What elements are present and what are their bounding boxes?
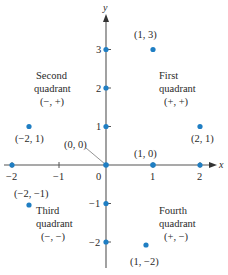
point-label: (1, 3) [134, 29, 157, 41]
y-tick-labels: 3 2 1 −1 −2 [89, 44, 101, 248]
svg-text:quadrant: quadrant [34, 83, 71, 94]
coordinate-plane-diagram: x y −2 −1 0 1 2 3 2 1 −1 −2 [0, 0, 228, 275]
point-0-0 [103, 162, 109, 168]
quadrant-second: Second quadrant (−, +) [34, 70, 71, 108]
svg-text:(+, +): (+, +) [164, 96, 189, 108]
x-tick-label: 0 [96, 171, 101, 182]
x-tick-label: −1 [53, 171, 64, 182]
x-tick-label: −2 [6, 171, 17, 182]
svg-text:(−, −): (−, −) [41, 231, 66, 243]
y-tick-label: −2 [89, 237, 100, 248]
y-axis-arrow-icon [103, 14, 109, 22]
point-1-0 [150, 162, 156, 168]
point-label: (0, 0) [64, 139, 87, 151]
svg-text:First: First [159, 70, 178, 81]
svg-text:Second: Second [36, 70, 68, 81]
svg-text:quadrant: quadrant [159, 218, 196, 229]
point-neg2-neg1 [26, 202, 31, 207]
point-2-1 [197, 124, 202, 129]
y-axis-label: y [102, 2, 108, 13]
y-tick-label: 1 [96, 121, 101, 132]
x-axis-arrow-icon [209, 162, 217, 168]
quadrant-fourth: Fourth quadrant (+, −) [159, 205, 196, 243]
point-label: (1, 0) [134, 148, 157, 160]
quadrant-third: Third quadrant (−, −) [36, 205, 73, 243]
y-ticks [106, 50, 111, 243]
svg-text:Fourth: Fourth [159, 205, 188, 216]
x-tick-label: 1 [150, 171, 155, 182]
svg-text:quadrant: quadrant [36, 218, 73, 229]
point-1-3 [150, 47, 155, 52]
x-axis-label: x [218, 159, 224, 170]
svg-text:(−, +): (−, +) [40, 96, 65, 108]
y-tick-label: 2 [96, 83, 101, 94]
y-tick-label: −1 [89, 198, 100, 209]
quadrant-first: First quadrant (+, +) [159, 70, 196, 108]
point-label: (−2, −1) [14, 188, 49, 200]
y-tick-label: 3 [96, 44, 101, 55]
svg-text:(+, −): (+, −) [164, 231, 189, 243]
point-label: (−2, 1) [15, 133, 44, 145]
point-1-neg2 [143, 242, 148, 247]
origin-leader-line [86, 148, 105, 164]
x-tick-labels: −2 −1 0 1 2 [6, 171, 202, 182]
x-tick-label: 2 [197, 171, 202, 182]
y-axis: y [102, 2, 109, 268]
svg-text:quadrant: quadrant [159, 83, 196, 94]
svg-text:Third: Third [36, 205, 60, 216]
x-axis: x [4, 159, 224, 170]
point-label: (1, −2) [130, 256, 159, 268]
point-label: (2, 1) [191, 133, 214, 145]
point-neg2-1 [26, 124, 31, 129]
